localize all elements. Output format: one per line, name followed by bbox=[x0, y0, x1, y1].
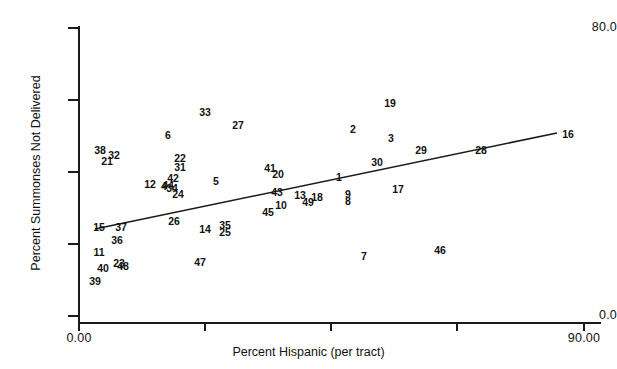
scatter-plot-figure: 80.00.0 0.0090.00 Percent Summonses Not … bbox=[0, 0, 617, 369]
regression-trendline bbox=[0, 0, 617, 369]
